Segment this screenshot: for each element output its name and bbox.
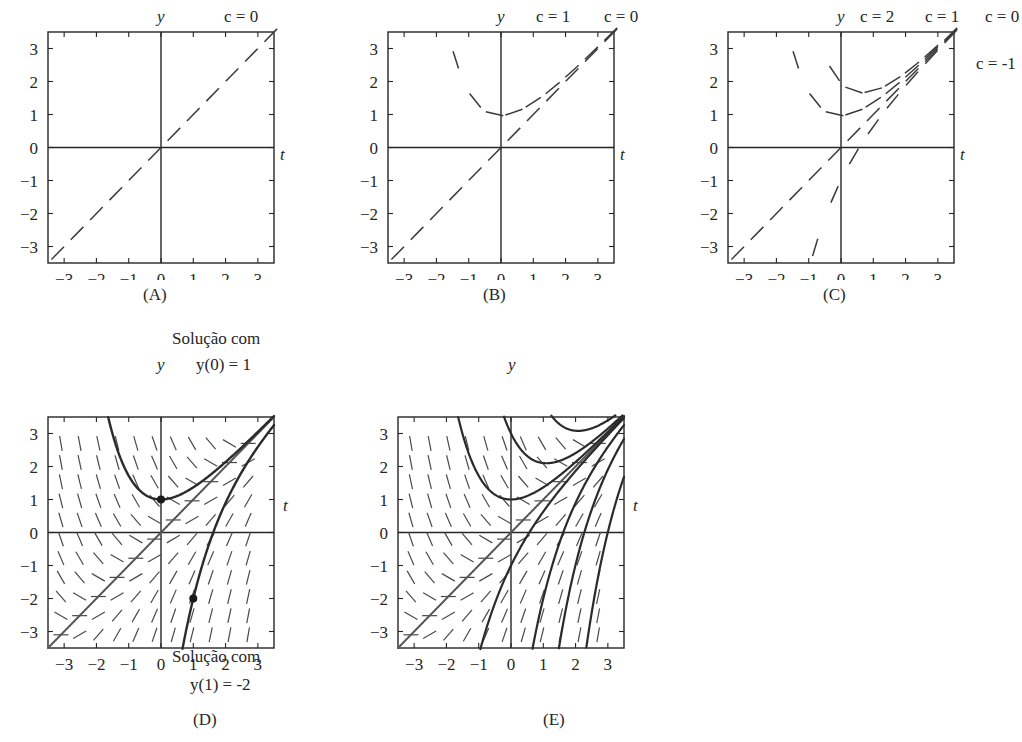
svg-text:0: 0 xyxy=(837,270,846,280)
svg-text:2: 2 xyxy=(571,655,580,674)
svg-text:−1: −1 xyxy=(460,270,478,280)
svg-text:2: 2 xyxy=(221,655,230,674)
svg-text:3: 3 xyxy=(254,655,263,674)
svg-text:−3: −3 xyxy=(360,238,378,257)
svg-text:−3: −3 xyxy=(55,655,73,674)
svg-text:2: 2 xyxy=(901,270,910,280)
panel-d-annotation-top-line1: Solução com xyxy=(172,330,260,347)
svg-text:2: 2 xyxy=(221,270,230,280)
svg-text:1: 1 xyxy=(189,655,198,674)
svg-text:−2: −2 xyxy=(20,205,38,224)
panel-a-plot: −3−2−101233210−1−2−3 xyxy=(0,0,340,280)
svg-text:1: 1 xyxy=(380,491,389,510)
svg-text:3: 3 xyxy=(934,270,943,280)
svg-text:3: 3 xyxy=(254,270,263,280)
svg-text:0: 0 xyxy=(157,270,166,280)
panel-d-y-axis-label: y xyxy=(157,356,165,373)
svg-text:3: 3 xyxy=(594,270,603,280)
panel-e-y-axis-label: y xyxy=(508,356,516,373)
svg-text:−1: −1 xyxy=(360,172,378,191)
svg-text:0: 0 xyxy=(380,524,389,543)
panel-b-caption: (B) xyxy=(483,286,506,303)
svg-text:0: 0 xyxy=(497,270,506,280)
svg-text:1: 1 xyxy=(710,106,719,125)
svg-text:2: 2 xyxy=(370,73,379,92)
svg-text:−2: −2 xyxy=(437,655,455,674)
svg-text:2: 2 xyxy=(710,73,719,92)
svg-text:−3: −3 xyxy=(700,238,718,257)
svg-text:3: 3 xyxy=(30,40,39,59)
svg-text:0: 0 xyxy=(710,139,719,158)
svg-text:1: 1 xyxy=(30,491,39,510)
svg-text:2: 2 xyxy=(380,458,389,477)
svg-text:−2: −2 xyxy=(360,205,378,224)
svg-text:0: 0 xyxy=(30,524,39,543)
svg-text:−2: −2 xyxy=(700,205,718,224)
svg-text:−1: −1 xyxy=(20,172,38,191)
svg-text:−1: −1 xyxy=(120,655,138,674)
svg-text:−1: −1 xyxy=(470,655,488,674)
panel-d-annotation-top-line2: y(0) = 1 xyxy=(196,356,251,373)
svg-text:0: 0 xyxy=(507,655,516,674)
svg-text:2: 2 xyxy=(561,270,570,280)
svg-text:1: 1 xyxy=(529,270,538,280)
svg-text:−2: −2 xyxy=(87,655,105,674)
panel-e-caption: (E) xyxy=(543,711,565,728)
svg-text:−3: −3 xyxy=(55,270,73,280)
svg-text:2: 2 xyxy=(30,458,39,477)
panel-c-plot: −3−2−101233210−1−2−3 xyxy=(680,0,1022,280)
svg-text:3: 3 xyxy=(710,40,719,59)
svg-text:3: 3 xyxy=(380,425,389,444)
panel-a-caption: (A) xyxy=(143,286,167,303)
svg-text:3: 3 xyxy=(30,425,39,444)
svg-text:1: 1 xyxy=(30,106,39,125)
svg-text:2: 2 xyxy=(30,73,39,92)
svg-text:1: 1 xyxy=(869,270,878,280)
svg-text:3: 3 xyxy=(370,40,379,59)
svg-text:−2: −2 xyxy=(87,270,105,280)
svg-text:3: 3 xyxy=(604,655,613,674)
svg-text:−2: −2 xyxy=(20,590,38,609)
svg-text:−3: −3 xyxy=(735,270,753,280)
svg-text:−3: −3 xyxy=(370,623,388,642)
panel-a: y c = 0 t (A) −3−2−101233210−1−2−3 xyxy=(0,0,340,320)
svg-text:1: 1 xyxy=(189,270,198,280)
svg-text:−1: −1 xyxy=(800,270,818,280)
svg-text:1: 1 xyxy=(539,655,548,674)
svg-text:0: 0 xyxy=(370,139,379,158)
panel-d: Solução com y(0) = 1 y t Solução com y(1… xyxy=(0,330,360,742)
svg-text:0: 0 xyxy=(157,655,166,674)
svg-text:−2: −2 xyxy=(767,270,785,280)
svg-text:−3: −3 xyxy=(20,238,38,257)
panel-c-caption: (C) xyxy=(823,286,846,303)
svg-text:−1: −1 xyxy=(120,270,138,280)
svg-text:−1: −1 xyxy=(20,557,38,576)
svg-text:−1: −1 xyxy=(700,172,718,191)
svg-text:0: 0 xyxy=(30,139,39,158)
svg-text:−1: −1 xyxy=(370,557,388,576)
svg-text:−2: −2 xyxy=(370,590,388,609)
panel-d-caption: (D) xyxy=(193,711,217,728)
svg-text:−3: −3 xyxy=(405,655,423,674)
panel-e: y t (E) −3−2−101233210−1−2−3 xyxy=(350,330,710,742)
panel-e-plot: −3−2−101233210−1−2−3 xyxy=(350,375,710,687)
svg-text:−3: −3 xyxy=(395,270,413,280)
svg-text:−3: −3 xyxy=(20,623,38,642)
panel-b-plot: −3−2−101233210−1−2−3 xyxy=(340,0,680,280)
panel-b: y c = 1 c = 0 t (B) −3−2−101233210−1−2−3 xyxy=(340,0,680,320)
svg-text:1: 1 xyxy=(370,106,379,125)
svg-text:−2: −2 xyxy=(427,270,445,280)
panel-d-plot: −3−2−101233210−1−2−3 xyxy=(0,375,360,687)
panel-c: y c = 2 c = 1 c = 0 c = -1 t (C) −3−2−10… xyxy=(680,0,1022,320)
